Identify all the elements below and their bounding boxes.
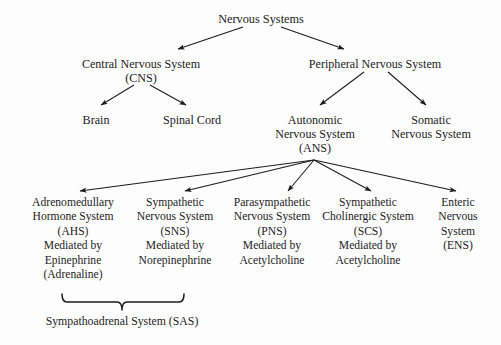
node-label: Cholinergic System — [322, 210, 414, 224]
node-label: Nervous System — [137, 210, 213, 224]
node-label: (AHS) — [32, 225, 114, 239]
node-scs: SympatheticCholinergic System(SCS)Mediat… — [322, 196, 414, 268]
node-autonomic-nervous-system: Autonomic Nervous System (ANS) — [275, 113, 355, 155]
node-nervous-systems: Nervous Systems — [218, 12, 304, 26]
edge-peripheral-to-sns — [388, 72, 426, 105]
node-label: Brain — [83, 113, 110, 127]
node-label: Spinal Cord — [163, 113, 221, 127]
node-label: Mediated by — [137, 239, 213, 253]
node-sns: SympatheticNervous System(SNS)Mediated b… — [137, 196, 213, 268]
node-label: Mediated by — [32, 239, 114, 253]
node-label: Enteric — [438, 196, 477, 210]
node-central-nervous-system: Central Nervous System (CNS) — [82, 57, 200, 85]
edge-ans-to-ens — [314, 160, 456, 191]
node-label: System — [438, 225, 477, 239]
node-label: Hormone System — [32, 210, 114, 224]
edge-cns-to-brain — [101, 85, 134, 105]
node-label: Mediated by — [322, 239, 414, 253]
node-abbrev: (ANS) — [275, 141, 355, 155]
node-label: Nervous System — [275, 127, 355, 141]
node-label: Peripheral Nervous System — [309, 57, 441, 71]
node-label: Somatic — [391, 113, 471, 127]
edge-ans-to-pns — [288, 160, 314, 191]
node-spinal-cord: Spinal Cord — [163, 113, 221, 127]
node-label: (ENS) — [438, 239, 477, 253]
node-label: Nervous System — [234, 210, 311, 224]
node-label: Adrenomedullary — [32, 196, 114, 210]
sympathoadrenal-system-label: Sympathoadrenal System (SAS) — [46, 314, 199, 329]
node-ahs: AdrenomedullaryHormone System(AHS)Mediat… — [32, 196, 114, 282]
node-abbrev: (CNS) — [82, 71, 200, 85]
node-label: (PNS) — [234, 225, 311, 239]
node-label: Nervous Systems — [218, 12, 304, 26]
node-label: Sympathetic — [322, 196, 414, 210]
edge-layer — [0, 0, 501, 345]
nervous-systems-diagram: Nervous Systems Central Nervous System (… — [0, 0, 501, 345]
edge-ans-to-scs — [314, 160, 371, 191]
node-label: (SCS) — [322, 225, 414, 239]
node-label: Nervous — [438, 210, 477, 224]
edge-ans-to-ahs — [80, 160, 314, 191]
node-label: Autonomic — [275, 113, 355, 127]
node-label: Nervous System — [391, 127, 471, 141]
edge-cns-to-spinal — [150, 85, 186, 105]
node-somatic-nervous-system: Somatic Nervous System — [391, 113, 471, 141]
node-ens: EntericNervousSystem(ENS) — [438, 196, 477, 254]
sympathoadrenal-bracket — [62, 294, 184, 310]
bracket-label-text: Sympathoadrenal System (SAS) — [46, 314, 199, 328]
node-label: Parasympathetic — [234, 196, 311, 210]
node-pns: ParasympatheticNervous System(PNS)Mediat… — [234, 196, 311, 268]
node-label: Norepinephrine — [137, 254, 213, 268]
edge-root-to-peripheral — [281, 27, 344, 49]
node-label: Sympathetic — [137, 196, 213, 210]
node-peripheral-nervous-system: Peripheral Nervous System — [309, 57, 441, 71]
edge-peripheral-to-ans — [320, 72, 364, 105]
node-label: Acetylcholine — [322, 254, 414, 268]
node-label: (Adrenaline) — [32, 268, 114, 282]
node-label: (SNS) — [137, 225, 213, 239]
edge-root-to-cns — [178, 27, 243, 49]
node-label: Epinephrine — [32, 254, 114, 268]
node-label: Mediated by — [234, 239, 311, 253]
node-label: Central Nervous System — [82, 57, 200, 71]
edge-ans-to-sns — [185, 160, 314, 191]
node-brain: Brain — [83, 113, 110, 127]
node-label: Acetylcholine — [234, 254, 311, 268]
